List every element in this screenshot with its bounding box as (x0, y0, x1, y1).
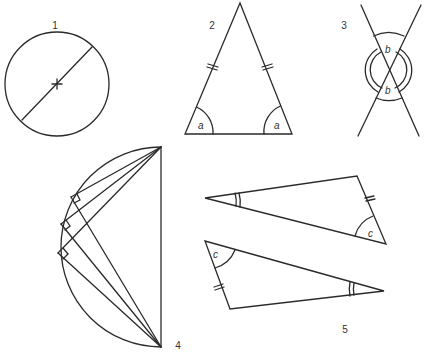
angle-b-top: b (385, 44, 391, 55)
figure-3-label: 3 (341, 20, 347, 31)
figure-4-label: 4 (175, 340, 181, 351)
angle-b-bottom: b (385, 85, 391, 96)
figure-4-semicircle: 4 (58, 147, 181, 351)
chord-top-2 (61, 147, 161, 224)
angle-double-arc-upper-2 (239, 193, 240, 207)
angle-double-arc-upper-1 (235, 193, 236, 206)
angle-c-lower: c (213, 249, 218, 260)
figure-3-vertical-angles: 3 b b (341, 5, 421, 136)
triangle-upper (205, 176, 386, 244)
right-angle-mark-2 (65, 220, 70, 230)
chord-top-1 (71, 147, 161, 197)
figure-1-circle: 1 (5, 20, 109, 136)
figure-1-label: 1 (52, 20, 58, 31)
triangle (185, 3, 292, 134)
tick-right-1 (262, 64, 272, 67)
semicircle-arc (61, 147, 161, 347)
figure-2-isosceles-triangle: 2 a a (185, 3, 292, 134)
angle-arc-bottom (376, 98, 402, 101)
angle-a-left: a (198, 120, 204, 131)
right-angle-mark-3 (63, 248, 68, 259)
triangle-lower (205, 241, 384, 309)
tick-right-2 (263, 67, 273, 70)
chord-bottom-1 (71, 197, 161, 347)
angle-double-arc-lower-2 (353, 283, 354, 295)
angle-c-upper: c (368, 228, 373, 239)
figure-5-congruent-triangles: c c 5 (205, 176, 386, 335)
angle-a-right: a (274, 120, 280, 131)
angle-arc-top (374, 33, 405, 36)
angle-arc-lower-c (215, 250, 235, 268)
figure-2-label: 2 (209, 20, 215, 31)
angle-arc-right-inner (395, 52, 407, 88)
angle-double-arc-lower-1 (349, 282, 350, 296)
geometry-diagram: 1 2 a a 3 b b (0, 0, 427, 356)
figure-5-label: 5 (342, 324, 348, 335)
chord-bottom-2 (61, 224, 161, 347)
angle-arc-left-inner (370, 52, 382, 88)
